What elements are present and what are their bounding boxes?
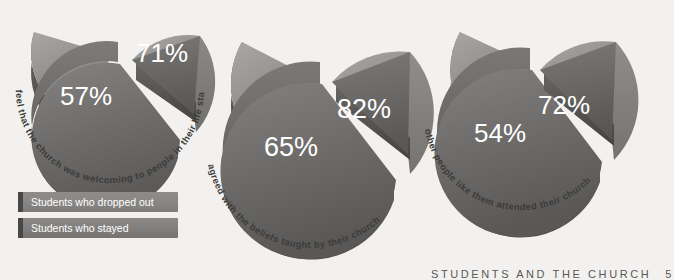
legend-item-dropped-out[interactable]: Students who dropped out bbox=[18, 192, 178, 212]
pie-chart-peers-svg: 72% 54% other people like them attended … bbox=[418, 6, 636, 244]
pie-chart-welcoming: 71% 57% feel that the church was welcomi… bbox=[8, 2, 213, 187]
value-stayed-welcoming: 71% bbox=[136, 38, 188, 68]
legend-label-stayed: Students who stayed bbox=[18, 222, 128, 234]
footer-page-number: 5 bbox=[665, 268, 674, 280]
footer-title: STUDENTS AND THE CHURCH bbox=[431, 268, 651, 280]
value-dropped-peers: 54% bbox=[474, 118, 526, 148]
pie-chart-beliefs: 82% 65% agreed with the beliefs taught b… bbox=[196, 14, 426, 264]
chart-legend: Students who dropped out Students who st… bbox=[18, 192, 178, 238]
value-stayed-beliefs: 82% bbox=[337, 94, 391, 124]
value-dropped-beliefs: 65% bbox=[264, 132, 318, 162]
legend-label-dropped-out: Students who dropped out bbox=[18, 196, 154, 208]
value-stayed-peers: 72% bbox=[538, 90, 590, 120]
pie-chart-beliefs-svg: 82% 65% agreed with the beliefs taught b… bbox=[196, 14, 426, 264]
footer: STUDENTS AND THE CHURCH5 bbox=[431, 268, 674, 280]
value-dropped-welcoming: 57% bbox=[60, 81, 112, 111]
pie-chart-peers: 72% 54% other people like them attended … bbox=[418, 6, 636, 244]
pie-chart-welcoming-svg: 71% 57% feel that the church was welcomi… bbox=[8, 2, 213, 187]
legend-item-stayed[interactable]: Students who stayed bbox=[18, 218, 178, 238]
